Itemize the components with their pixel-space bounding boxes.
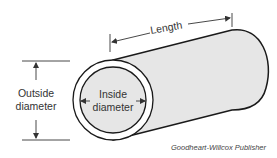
outside-diameter-label-line1: Outside xyxy=(18,87,54,99)
outside-diameter-label-line2: diameter xyxy=(16,100,57,112)
publisher-credit: Goodheart-Willcox Publisher xyxy=(171,143,266,152)
inner-bore-circle xyxy=(80,67,146,133)
inside-diameter-label-line2: diameter xyxy=(93,101,134,113)
inside-diameter-label-line1: Inside xyxy=(99,88,127,100)
length-label: Length xyxy=(149,19,183,36)
pipe-diagram: Length Outside diameter Inside diameter … xyxy=(0,0,277,158)
